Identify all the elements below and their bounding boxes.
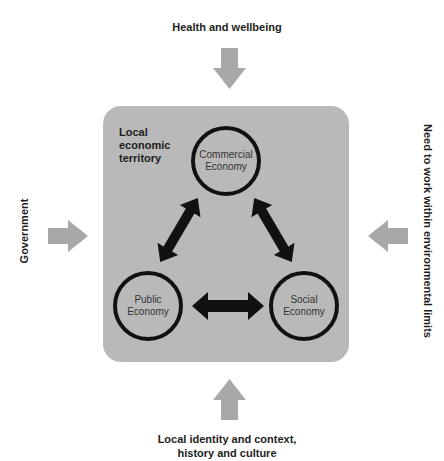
- down-arrow-icon: [213, 48, 246, 89]
- node-social-economy: Social Economy: [269, 271, 339, 341]
- node-social-line1: Social: [283, 294, 325, 306]
- node-public-line1: Public: [127, 294, 169, 306]
- node-social-line2: Economy: [283, 306, 325, 318]
- double-arrow-commercial-social: [244, 192, 302, 268]
- right-arrow-icon: [48, 220, 88, 252]
- arrows-layer: [0, 0, 444, 461]
- left-arrow-icon: [368, 220, 408, 252]
- up-arrow-icon: [213, 379, 246, 420]
- node-public-line2: Economy: [127, 306, 169, 318]
- double-arrow-commercial-public: [150, 192, 208, 268]
- node-commercial-line1: Commercial: [199, 149, 252, 161]
- node-public-economy: Public Economy: [113, 271, 183, 341]
- node-commercial-economy: Commercial Economy: [191, 126, 261, 196]
- double-arrow-public-social: [192, 292, 264, 320]
- node-commercial-line2: Economy: [199, 161, 252, 173]
